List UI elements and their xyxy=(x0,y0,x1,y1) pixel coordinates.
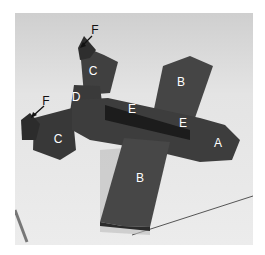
airplane-model-photo: A B B C C D E E F F xyxy=(15,13,253,245)
label-C-lower: C xyxy=(54,133,63,145)
label-F-upper: F xyxy=(91,24,98,36)
label-A: A xyxy=(214,137,222,149)
label-C-upper: C xyxy=(89,65,98,77)
airplane-model-drawing xyxy=(15,13,253,245)
label-B-upper: B xyxy=(177,76,185,88)
label-E-left: E xyxy=(128,103,136,115)
label-B-lower: B xyxy=(136,172,144,184)
label-D: D xyxy=(72,91,81,103)
label-F-lower: F xyxy=(42,95,49,107)
label-E-right: E xyxy=(179,117,187,129)
